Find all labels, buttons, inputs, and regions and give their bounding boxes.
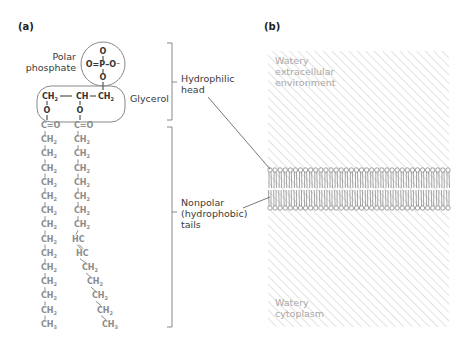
lipid-head xyxy=(344,206,348,210)
cytoplasm-line2: cytoplasm xyxy=(275,308,324,319)
lipid-head xyxy=(308,206,312,210)
tail-left-group: CH2 xyxy=(41,306,58,316)
lipid-head xyxy=(436,206,440,210)
tail-right-group: CH2 xyxy=(87,277,104,287)
tail-right-group: HC xyxy=(72,235,85,244)
lipid-head xyxy=(425,168,429,172)
lipid-head xyxy=(359,206,363,210)
tail-left-group: CH2 xyxy=(41,178,58,188)
lipid-head xyxy=(283,168,287,172)
lipid-head xyxy=(415,168,419,172)
tail-left-group: CH2 xyxy=(41,149,58,159)
lipid-head xyxy=(370,168,374,172)
nonpolar-label-line3: tails xyxy=(181,219,201,230)
tail-right-group: CH2 xyxy=(74,135,91,145)
lipid-head xyxy=(293,168,297,172)
lipid-head xyxy=(278,206,282,210)
tail-left-group: CH2 xyxy=(41,192,58,202)
lipid-head xyxy=(288,168,292,172)
lipid-head xyxy=(410,206,414,210)
lipid-head xyxy=(385,168,389,172)
lipid-head xyxy=(431,206,435,210)
tail-left-group: CH2 xyxy=(41,220,58,230)
tail-left-group: CH2 xyxy=(41,291,58,301)
tail-right-group: CH2 xyxy=(74,164,91,174)
leader-line-tails xyxy=(243,197,270,208)
water-environment-area xyxy=(268,51,449,327)
fatty-acid-tail-left: C=OCH2CH2CH2CH2CH2CH2CH2CH2CH2CH2CH2CH2C… xyxy=(41,121,61,330)
polar-label-line2: phosphate xyxy=(26,62,76,73)
lipid-head xyxy=(329,168,333,172)
tail-right-group: CH2 xyxy=(82,263,99,273)
lipid-head xyxy=(431,168,435,172)
nonpolar-label-line1: Nonpolar xyxy=(181,197,224,208)
lipid-head xyxy=(375,168,379,172)
tail-right-group: CH2 xyxy=(74,206,91,216)
lipid-head xyxy=(446,168,450,172)
ester-o-left: O xyxy=(44,106,51,115)
fatty-acid-tail-right: C=OCH2CH2CH2CH2CH2CH2CH2HCHCCH2CH2CH2CH2… xyxy=(72,121,119,330)
lipid-head xyxy=(288,206,292,210)
tail-right-group: HC xyxy=(76,249,89,258)
bracket-hydrophobic-tails xyxy=(167,127,177,327)
lipid-head xyxy=(420,168,424,172)
lipid-head xyxy=(395,206,399,210)
tail-left-group: CH2 xyxy=(41,164,58,174)
lipid-head xyxy=(380,168,384,172)
svg-text:CH: CH xyxy=(76,92,89,101)
glycerol-group: CH2 CH CH2 O O xyxy=(37,86,125,122)
glycerol-label: Glycerol xyxy=(130,93,169,104)
lipid-head xyxy=(293,206,297,210)
extracellular-line3: environment xyxy=(275,77,336,88)
lipid-head xyxy=(375,206,379,210)
extracellular-line2: extracellular xyxy=(275,66,335,77)
tail-left-group: CH2 xyxy=(41,235,58,245)
lipid-head xyxy=(420,206,424,210)
tail-right-group: CH2 xyxy=(74,192,91,202)
svg-text:CH2: CH2 xyxy=(42,92,59,102)
tail-left-group: CH2 xyxy=(41,263,58,273)
nonpolar-label-line2: (hydrophobic) xyxy=(181,208,247,219)
phosphate-bottom-o: O xyxy=(100,73,107,82)
tail-right-group: CH2 xyxy=(92,291,109,301)
lipid-head xyxy=(273,168,277,172)
tail-left-group: CH2 xyxy=(41,135,58,145)
lipid-head xyxy=(395,168,399,172)
lipid-head xyxy=(364,206,368,210)
lipid-head xyxy=(405,168,409,172)
lipid-head xyxy=(380,206,384,210)
lipid-head xyxy=(324,206,328,210)
cytoplasm-line1: Watery xyxy=(275,297,309,308)
lipid-head xyxy=(273,206,277,210)
lipid-head xyxy=(441,168,445,172)
tail-right-group: CH2 xyxy=(97,306,114,316)
lipid-head xyxy=(446,206,450,210)
panel-a-label: (a) xyxy=(18,21,34,32)
lipid-head xyxy=(308,168,312,172)
lipid-head xyxy=(314,206,318,210)
extracellular-line1: Watery xyxy=(275,55,309,66)
lipid-head xyxy=(410,168,414,172)
lipid-head xyxy=(400,168,404,172)
lipid-head xyxy=(314,168,318,172)
lipid-head xyxy=(329,206,333,210)
lipid-head xyxy=(298,206,302,210)
lipid-head xyxy=(385,206,389,210)
lipid-head xyxy=(324,168,328,172)
lipid-head xyxy=(298,168,302,172)
lipid-head xyxy=(278,168,282,172)
ester-o-right: O xyxy=(77,106,84,115)
lipid-head xyxy=(415,206,419,210)
lipid-head xyxy=(400,206,404,210)
lipid-head xyxy=(319,206,323,210)
carbonyl-left: C=O xyxy=(41,121,61,130)
lipid-head xyxy=(370,206,374,210)
phospholipid-diagram: (a) (b) O O=P–O⁻ O Polar phosphate CH2 C… xyxy=(0,0,473,347)
lipid-head xyxy=(354,168,358,172)
lipid-head xyxy=(390,168,394,172)
lipid-head xyxy=(344,168,348,172)
lipid-head xyxy=(303,206,307,210)
carbonyl-right: C=O xyxy=(74,121,94,130)
lipid-head xyxy=(436,168,440,172)
lipid-head xyxy=(349,206,353,210)
